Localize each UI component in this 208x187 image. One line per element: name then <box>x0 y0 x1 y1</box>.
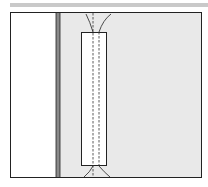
sewing-diagram <box>0 0 208 187</box>
fold-edge <box>56 13 60 177</box>
white-facing <box>11 13 56 177</box>
stitched-strip <box>82 33 107 166</box>
top-bar <box>10 3 208 7</box>
